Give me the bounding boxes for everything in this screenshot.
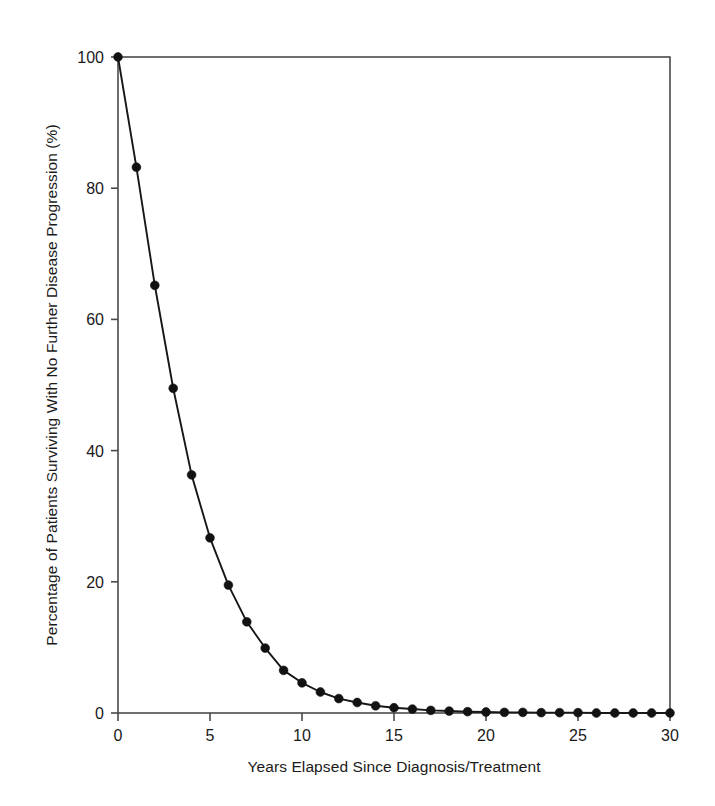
data-point-marker bbox=[574, 708, 583, 717]
data-point-marker bbox=[482, 708, 491, 717]
y-tick-label: 100 bbox=[77, 49, 104, 66]
data-point-marker bbox=[242, 617, 251, 626]
data-point-marker bbox=[206, 533, 215, 542]
data-point-marker bbox=[518, 708, 527, 717]
data-point-marker bbox=[316, 688, 325, 697]
chart-background bbox=[0, 0, 715, 806]
data-point-marker bbox=[279, 666, 288, 675]
data-point-marker bbox=[555, 708, 564, 717]
x-axis-title: Years Elapsed Since Diagnosis/Treatment bbox=[247, 758, 541, 775]
data-point-marker bbox=[150, 281, 159, 290]
data-point-marker bbox=[390, 703, 399, 712]
y-axis-title: Percentage of Patients Surviving With No… bbox=[43, 124, 60, 646]
x-tick-label: 20 bbox=[477, 727, 495, 744]
chart-figure: 020406080100 051015202530 Years Elapsed … bbox=[0, 0, 715, 806]
data-point-marker bbox=[610, 709, 619, 718]
data-point-marker bbox=[537, 708, 546, 717]
x-tick-label: 15 bbox=[385, 727, 403, 744]
x-tick-label: 10 bbox=[293, 727, 311, 744]
data-point-marker bbox=[261, 644, 270, 653]
y-tick-label: 80 bbox=[86, 180, 104, 197]
x-tick-label: 25 bbox=[569, 727, 587, 744]
data-point-marker bbox=[408, 705, 417, 714]
y-tick-label: 20 bbox=[86, 574, 104, 591]
data-point-marker bbox=[463, 707, 472, 716]
data-point-marker bbox=[224, 581, 233, 590]
x-tick-label: 0 bbox=[114, 727, 123, 744]
data-point-marker bbox=[647, 709, 656, 718]
data-point-marker bbox=[629, 709, 638, 718]
data-point-marker bbox=[500, 708, 509, 717]
data-point-marker bbox=[187, 470, 196, 479]
data-point-marker bbox=[353, 698, 362, 707]
data-point-marker bbox=[169, 384, 178, 393]
y-tick-label: 60 bbox=[86, 311, 104, 328]
y-tick-label: 40 bbox=[86, 443, 104, 460]
data-point-marker bbox=[334, 694, 343, 703]
data-point-marker bbox=[592, 709, 601, 718]
data-point-marker bbox=[114, 53, 123, 62]
progression-free-survival-chart: 020406080100 051015202530 Years Elapsed … bbox=[0, 0, 715, 806]
data-point-marker bbox=[666, 709, 675, 718]
y-tick-label: 0 bbox=[95, 705, 104, 722]
data-point-marker bbox=[132, 163, 141, 172]
data-point-marker bbox=[371, 701, 380, 710]
data-point-marker bbox=[426, 706, 435, 715]
x-tick-label: 5 bbox=[206, 727, 215, 744]
x-tick-label: 30 bbox=[661, 727, 679, 744]
data-point-marker bbox=[445, 707, 454, 716]
data-point-marker bbox=[298, 678, 307, 687]
